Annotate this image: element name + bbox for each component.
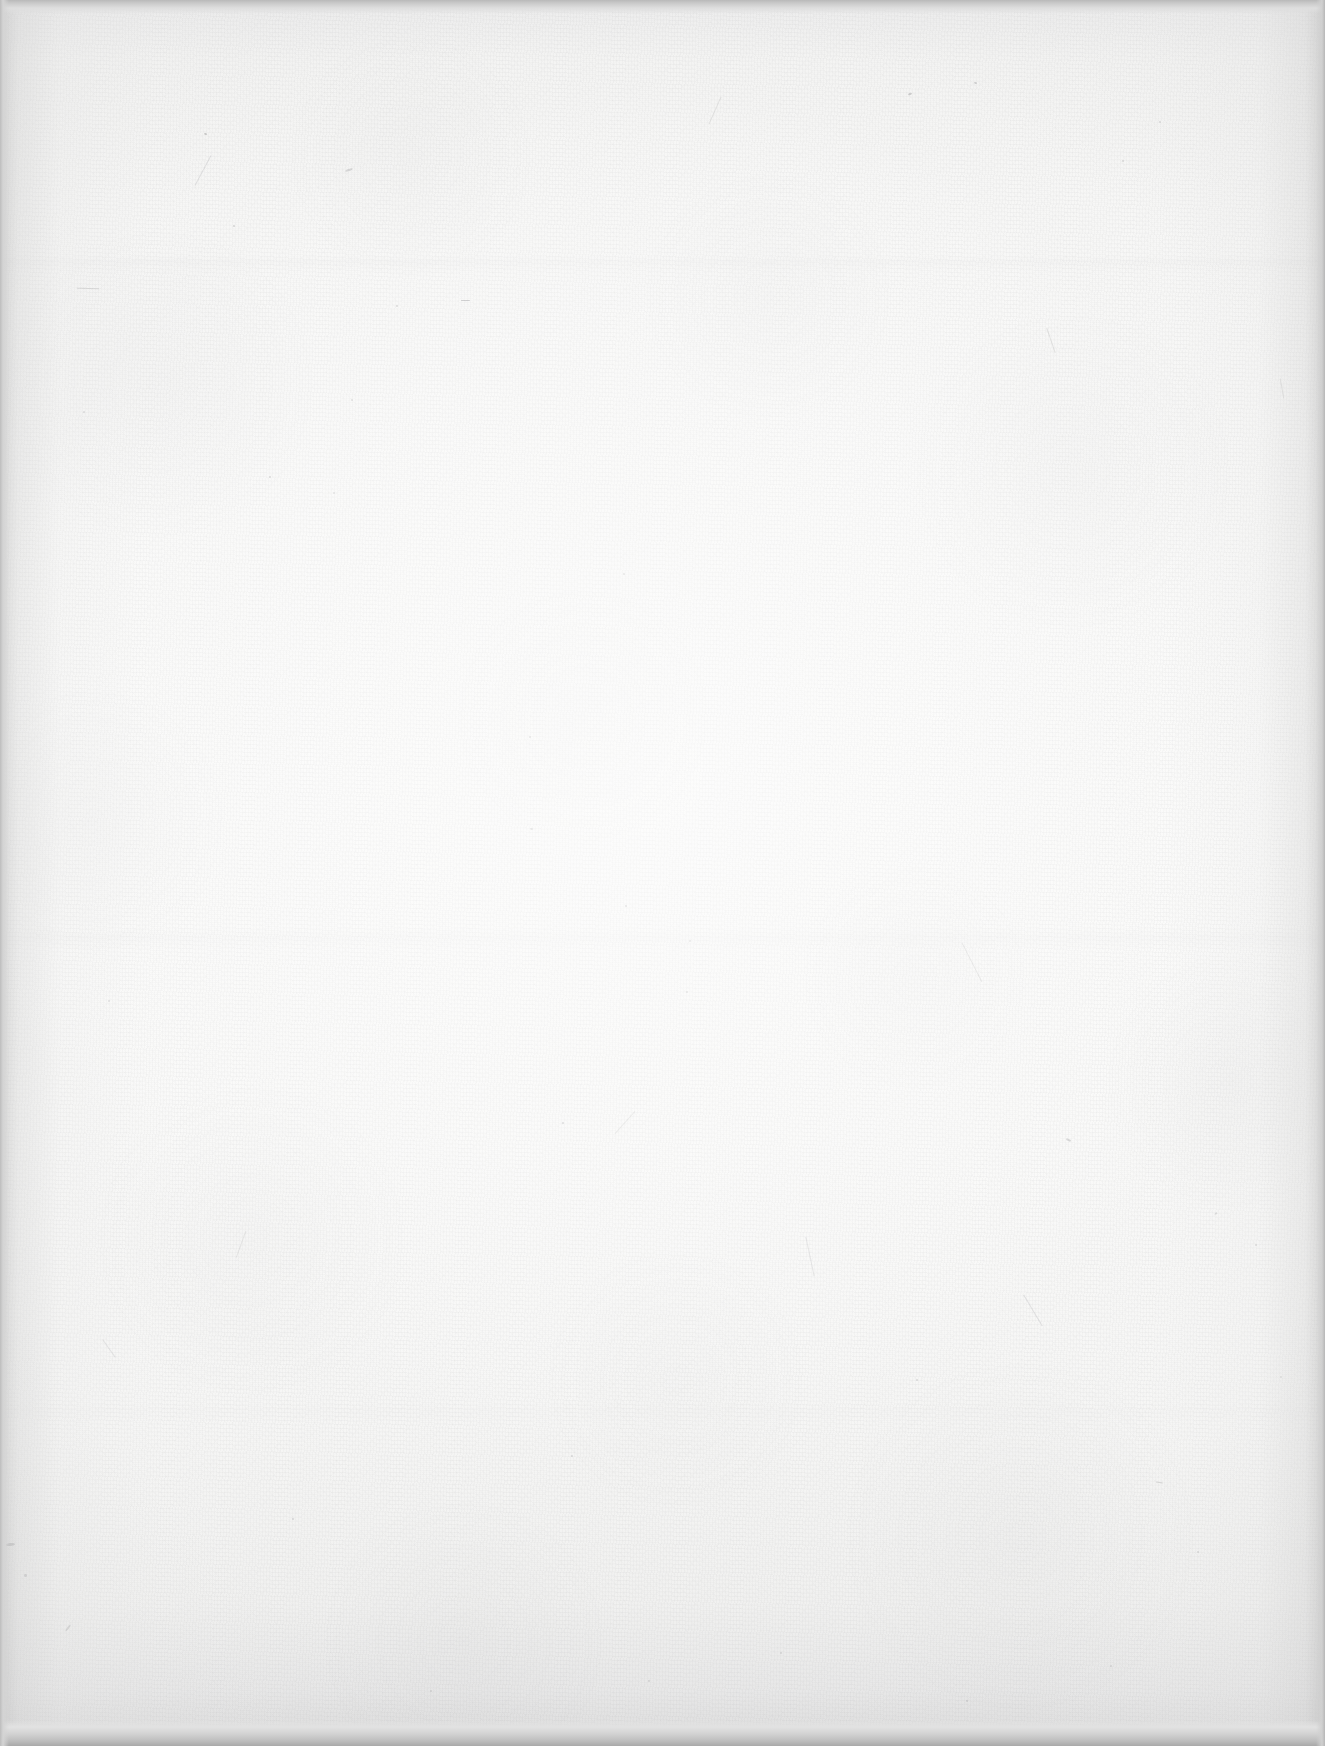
fiber-speck xyxy=(204,133,207,136)
fiber-speck xyxy=(1159,121,1161,123)
paper-base-layer xyxy=(0,0,1325,1746)
fiber-hair xyxy=(708,97,721,125)
scanner-band-top xyxy=(0,0,1325,14)
paper-mottle-texture xyxy=(0,0,1325,1746)
fiber-speck xyxy=(233,225,235,227)
radial-vignette xyxy=(0,0,1325,1746)
fiber-speck xyxy=(1122,160,1124,162)
paper-crease-layer xyxy=(0,0,1325,1746)
fiber-speck xyxy=(530,828,533,831)
fiber-speck xyxy=(648,1680,650,1682)
fiber-hair xyxy=(805,1237,814,1276)
fiber-hair xyxy=(962,943,983,983)
fiber-speck xyxy=(430,1690,432,1692)
fiber-hair xyxy=(1280,379,1284,399)
fiber-speck xyxy=(461,300,470,301)
fiber-speck xyxy=(396,305,398,307)
fiber-speck xyxy=(351,399,353,401)
fiber-speck xyxy=(529,736,531,738)
fiber-speck xyxy=(571,1455,573,1457)
fiber-speck xyxy=(333,492,335,494)
fiber-hair xyxy=(236,1231,247,1258)
fiber-speck xyxy=(908,92,912,96)
fiber-speck xyxy=(108,1000,110,1002)
fiber-hair xyxy=(615,1111,636,1134)
fiber-speck xyxy=(292,1518,294,1520)
paper-fiber-texture xyxy=(0,0,1325,1746)
scanned-page xyxy=(0,0,1325,1746)
fiber-speck xyxy=(916,1379,918,1381)
fiber-speck xyxy=(1280,1376,1282,1378)
fiber-speck xyxy=(974,82,978,85)
fiber-speck xyxy=(625,905,627,907)
fiber-speck xyxy=(966,1700,968,1702)
fiber-speck xyxy=(1066,1138,1071,1142)
horizontal-vignette xyxy=(0,0,1325,1746)
fiber-speck xyxy=(780,1652,782,1654)
fiber-hair xyxy=(102,1339,115,1358)
page-edge-left xyxy=(0,0,9,1746)
fiber-speck xyxy=(1156,1482,1163,1484)
fiber-speck xyxy=(1255,1244,1257,1246)
fiber-speck xyxy=(1110,1665,1112,1667)
fiber-speck xyxy=(77,288,99,290)
page-edge-right xyxy=(1316,0,1325,1746)
fiber-hair xyxy=(1046,328,1055,353)
scanner-band-bottom xyxy=(0,1720,1325,1746)
fiber-speck xyxy=(345,168,353,172)
fiber-speck xyxy=(1197,1551,1199,1553)
fiber-speck xyxy=(65,1624,72,1632)
fiber-speck xyxy=(269,476,271,478)
fiber-speck-layer xyxy=(0,0,1325,1746)
fiber-speck xyxy=(623,573,625,575)
fiber-hair xyxy=(195,155,212,185)
fiber-speck xyxy=(24,1574,27,1577)
fiber-speck xyxy=(562,1122,564,1124)
fiber-speck xyxy=(1214,1212,1218,1215)
scan-striation-layer xyxy=(0,0,1325,1746)
fiber-speck xyxy=(83,411,85,413)
fiber-hair xyxy=(1023,1295,1042,1326)
fiber-speck xyxy=(686,991,688,993)
fiber-speck xyxy=(689,940,691,942)
